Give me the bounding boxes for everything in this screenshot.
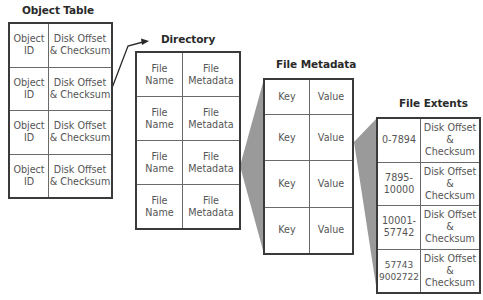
table-row: File Name File Metadata [137, 96, 239, 140]
file-name-cell: File Name [137, 53, 183, 96]
value-cell: Value [310, 115, 352, 160]
table-row: Key Value [265, 207, 352, 253]
key-cell: Key [265, 115, 310, 160]
file-name-cell: File Name [137, 97, 183, 140]
table-row: 57743 9002722 Disk Offset & Checksum [378, 249, 479, 293]
object-id-cell: Object ID [10, 155, 49, 198]
key-cell: Key [265, 80, 310, 114]
file-name-cell: File Name [137, 141, 183, 184]
file-metadata-cell: File Metadata [183, 97, 239, 140]
directory-table: File Name File Metadata File Name File M… [135, 51, 241, 230]
disk-offset-cell: Disk Offset & Checksum [421, 119, 479, 162]
table-row: File Name File Metadata [137, 184, 239, 228]
table-row: Object ID Disk Offset & Checksum [10, 24, 111, 67]
expand-funnel-directory-to-metadata [240, 79, 264, 254]
file-name-cell: File Name [137, 185, 183, 228]
disk-offset-cell: Disk Offset & Checksum [49, 155, 111, 198]
key-cell: Key [265, 208, 310, 253]
byte-range-cell: 0-7894 [378, 119, 421, 162]
disk-offset-cell: Disk Offset & Checksum [49, 24, 111, 67]
table-row: 0-7894 Disk Offset & Checksum [378, 119, 479, 162]
object-table: Object ID Disk Offset & Checksum Object … [8, 22, 113, 199]
file-extents-table: 0-7894 Disk Offset & Checksum 7895- 1000… [376, 117, 481, 294]
table-row: Key Value [265, 114, 352, 160]
object-id-cell: Object ID [10, 24, 49, 67]
value-cell: Value [310, 80, 352, 114]
byte-range-cell: 10001- 57742 [378, 206, 421, 249]
disk-offset-cell: Disk Offset & Checksum [421, 206, 479, 249]
table-row: Object ID Disk Offset & Checksum [10, 154, 111, 198]
disk-offset-cell: Disk Offset & Checksum [421, 163, 479, 206]
file-metadata-cell: File Metadata [183, 53, 239, 96]
disk-offset-cell: Disk Offset & Checksum [421, 250, 479, 293]
table-row: Object ID Disk Offset & Checksum [10, 110, 111, 154]
byte-range-cell: 57743 9002722 [378, 250, 421, 293]
file-metadata-cell: File Metadata [183, 141, 239, 184]
directory-title: Directory [161, 33, 215, 45]
byte-range-cell: 7895- 10000 [378, 163, 421, 206]
object-table-title: Object Table [22, 4, 94, 16]
object-id-cell: Object ID [10, 68, 49, 111]
table-row: 7895- 10000 Disk Offset & Checksum [378, 162, 479, 206]
file-metadata-table: Key Value Key Value Key Value Key Value [263, 78, 354, 255]
file-metadata-title: File Metadata [276, 58, 356, 70]
disk-offset-cell: Disk Offset & Checksum [49, 68, 111, 111]
value-cell: Value [310, 208, 352, 253]
value-cell: Value [310, 161, 352, 206]
object-id-cell: Object ID [10, 111, 49, 154]
table-row: Object ID Disk Offset & Checksum [10, 67, 111, 111]
arrow-head-icon [141, 39, 149, 46]
expand-funnel-metadata-to-extents [354, 118, 377, 292]
file-extents-title: File Extents [399, 97, 468, 109]
disk-offset-cell: Disk Offset & Checksum [49, 111, 111, 154]
file-metadata-cell: File Metadata [183, 185, 239, 228]
table-row: File Name File Metadata [137, 140, 239, 184]
table-row: Key Value [265, 160, 352, 206]
key-cell: Key [265, 161, 310, 206]
table-row: 10001- 57742 Disk Offset & Checksum [378, 205, 479, 249]
table-row: Key Value [265, 80, 352, 114]
table-row: File Name File Metadata [137, 53, 239, 96]
